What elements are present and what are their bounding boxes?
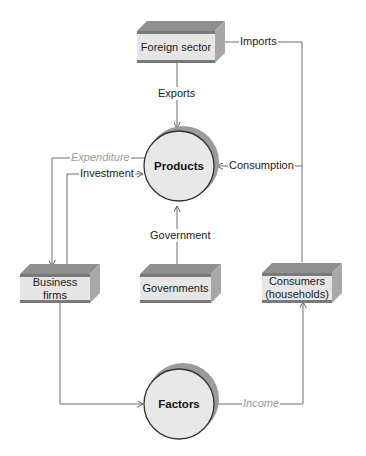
government-label: Government	[149, 229, 212, 242]
foreign-sector-label: Foreign sector	[137, 34, 215, 60]
circular-flow-diagram	[0, 0, 366, 456]
imports-label: Imports	[239, 35, 278, 48]
consumers-label: Consumers (households)	[262, 275, 332, 301]
consumers-label-line1: Consumers	[269, 275, 325, 288]
factors-label: Factors	[144, 394, 214, 414]
expenditure-label: Expenditure	[70, 151, 131, 164]
exports-label: Exports	[157, 87, 196, 100]
consumers-label-line2: (households)	[265, 288, 329, 301]
imports-flow-line	[218, 42, 302, 262]
consumption-label: Consumption	[228, 159, 295, 172]
governments-label: Governments	[140, 277, 211, 300]
business-firms-label: Business firms	[20, 277, 90, 300]
investment-flow-line	[67, 174, 143, 266]
investment-label: Investment	[79, 167, 135, 180]
income-label: Income	[242, 397, 280, 410]
income-flow-line	[217, 302, 303, 404]
products-label: Products	[144, 156, 214, 176]
business-to-factors-line	[60, 302, 143, 404]
